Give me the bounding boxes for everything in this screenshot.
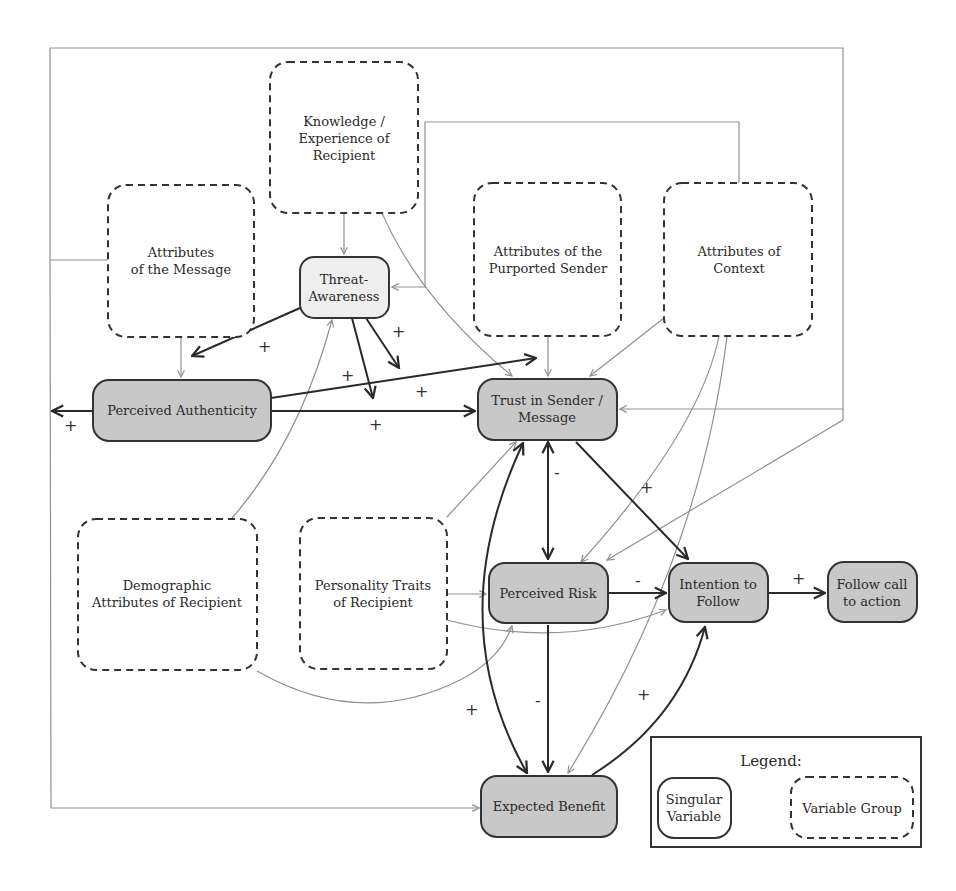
- variable-threat-awareness: Threat- Awareness: [300, 257, 389, 318]
- sign-intention-follow: +: [792, 569, 805, 588]
- variable-intention: Intention to Follow: [669, 563, 768, 622]
- sign-trust-benefit: +: [465, 700, 478, 719]
- trust-line2: Message: [518, 410, 576, 425]
- intention-line1: Intention to: [679, 577, 757, 592]
- sign-authenticity-trust: +: [369, 415, 382, 434]
- group-message: Attributes of the Message: [108, 185, 254, 337]
- variable-follow-call: Follow call to action: [828, 562, 917, 622]
- risk-label: Perceived Risk: [499, 586, 596, 601]
- group-knowledge: Knowledge / Experience of Recipient: [270, 62, 418, 213]
- group-message-line1: Attributes: [147, 245, 214, 260]
- group-sender-line1: Attributes of the: [493, 244, 603, 259]
- threat-line1: Threat-: [320, 272, 368, 287]
- variable-expected-benefit: Expected Benefit: [481, 776, 617, 837]
- personality-to-trust-edge: [447, 442, 516, 517]
- sign-trust-intention: +: [640, 478, 653, 497]
- follow-line1: Follow call: [837, 577, 908, 592]
- sign-benefit-intention: +: [637, 685, 650, 704]
- sign-trust-risk: -: [554, 463, 560, 482]
- threat-line2: Awareness: [308, 289, 380, 304]
- variable-trust: Trust in Sender / Message: [478, 379, 617, 440]
- group-knowledge-line3: Recipient: [313, 148, 376, 163]
- legend-singular-line1: Singular: [666, 792, 723, 807]
- sign-authenticity-left: +: [64, 416, 77, 435]
- group-demographic-line1: Demographic: [123, 578, 212, 593]
- group-message-line2: of the Message: [131, 262, 232, 277]
- legend: Legend: Singular Variable Variable Group: [651, 737, 921, 847]
- group-personality-line1: Personality Traits: [315, 578, 431, 593]
- group-sender: Attributes of the Purported Sender: [474, 183, 621, 336]
- sign-threat-link: +: [415, 382, 428, 401]
- variable-perceived-risk: Perceived Risk: [489, 563, 608, 623]
- sign-threat-trust-b: +: [392, 322, 405, 341]
- group-knowledge-line1: Knowledge /: [303, 114, 385, 129]
- group-personality-line2: of Recipient: [333, 595, 413, 610]
- group-context-line1: Attributes of: [696, 244, 781, 259]
- sign-risk-intention: -: [635, 571, 641, 590]
- group-demographic: Demographic Attributes of Recipient: [78, 519, 257, 670]
- benefit-label: Expected Benefit: [493, 799, 606, 814]
- context-to-risk-edge: [581, 336, 719, 562]
- variable-perceived-authenticity: Perceived Authenticity: [93, 380, 271, 441]
- authenticity-label: Perceived Authenticity: [107, 403, 257, 418]
- trust-to-intention-edge: [576, 442, 688, 559]
- group-demographic-line2: Attributes of Recipient: [91, 595, 243, 610]
- sign-risk-benefit: -: [535, 691, 541, 710]
- group-personality: Personality Traits of Recipient: [300, 518, 447, 669]
- legend-singular-box: [658, 778, 731, 838]
- diagram-canvas: + + + + + + - + - + - + + Knowledge / Ex…: [0, 0, 956, 891]
- sign-threat-link-a: +: [341, 366, 354, 385]
- legend-group-label: Variable Group: [801, 801, 902, 816]
- group-context-line2: Context: [713, 261, 765, 276]
- group-context: Attributes of Context: [664, 183, 812, 336]
- follow-line2: to action: [843, 594, 901, 609]
- group-knowledge-line2: Experience of: [298, 131, 390, 146]
- intention-line2: Follow: [696, 594, 739, 609]
- legend-title: Legend:: [740, 752, 802, 770]
- sign-threat-authenticity: +: [258, 337, 271, 356]
- trust-line1: Trust in Sender /: [491, 393, 603, 408]
- legend-singular-line2: Variable: [666, 809, 722, 824]
- group-sender-line2: Purported Sender: [489, 261, 608, 276]
